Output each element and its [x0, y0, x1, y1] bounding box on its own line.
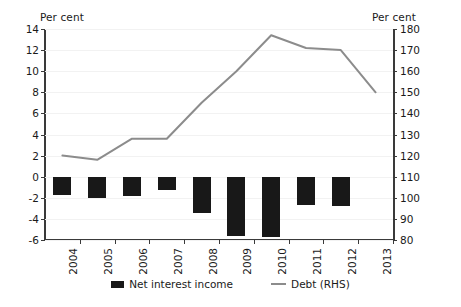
- right-axis-tickmark: [393, 198, 397, 199]
- legend-line-swatch-icon: [271, 283, 286, 285]
- x-axis-tickmark: [149, 240, 150, 244]
- legend-bar-swatch-icon: [111, 281, 124, 288]
- right-axis-tick-label: 130: [400, 129, 430, 141]
- left-axis-tickmark: [41, 240, 45, 241]
- legend-item: Net interest income: [111, 278, 233, 290]
- right-axis-tickmark: [393, 135, 397, 136]
- left-axis-tick-label: 6: [13, 107, 39, 119]
- x-axis-tickmark: [289, 240, 290, 244]
- left-axis-title: Per cent: [40, 11, 84, 23]
- x-axis-tickmark: [323, 240, 324, 244]
- x-axis-tick-label: 2004: [67, 248, 79, 275]
- debt-line: [62, 35, 375, 160]
- left-axis-tick-label: -2: [13, 192, 39, 204]
- right-axis-tick-label: 80: [400, 234, 430, 246]
- left-axis-tick-label: 10: [13, 65, 39, 77]
- left-axis-tick-label: -4: [13, 213, 39, 225]
- x-axis-tickmark: [184, 240, 185, 244]
- x-axis-tick-label: 2007: [172, 248, 184, 275]
- x-axis-tick-label: 2005: [102, 248, 114, 275]
- right-axis-tick-label: 100: [400, 192, 430, 204]
- x-axis-tickmark: [358, 240, 359, 244]
- chart-legend: Net interest incomeDebt (RHS): [0, 278, 461, 290]
- right-axis-tickmark: [393, 219, 397, 220]
- right-axis-tickmark: [393, 92, 397, 93]
- legend-item: Debt (RHS): [271, 278, 350, 290]
- right-axis-tick-label: 140: [400, 107, 430, 119]
- x-axis-tickmark: [80, 240, 81, 244]
- left-axis-tick-label: 2: [13, 150, 39, 162]
- right-axis-tick-label: 90: [400, 213, 430, 225]
- right-axis-tick-label: 170: [400, 44, 430, 56]
- x-axis-tickmark: [254, 240, 255, 244]
- right-axis-title: Per cent: [372, 11, 416, 23]
- x-axis-tick-label: 2006: [137, 248, 149, 275]
- x-axis-tick-label: 2011: [311, 248, 323, 275]
- right-axis-tick-label: 150: [400, 86, 430, 98]
- right-axis-tickmark: [393, 50, 397, 51]
- x-axis-tick-label: 2010: [276, 248, 288, 275]
- right-axis-tick-label: 120: [400, 150, 430, 162]
- x-axis-tickmark: [393, 240, 394, 244]
- left-axis-tick-label: 14: [13, 23, 39, 35]
- right-axis-tickmark: [393, 177, 397, 178]
- right-axis-tick-label: 180: [400, 23, 430, 35]
- left-axis-tick-label: 12: [13, 44, 39, 56]
- x-axis-tick-label: 2009: [241, 248, 253, 275]
- x-axis-tick-label: 2013: [381, 248, 393, 275]
- legend-label: Debt (RHS): [291, 278, 350, 290]
- x-axis-tick-label: 2008: [207, 248, 219, 275]
- x-axis-tickmark: [219, 240, 220, 244]
- right-axis-tickmark: [393, 71, 397, 72]
- right-axis-tickmark: [393, 29, 397, 30]
- left-axis-tick-label: -6: [13, 234, 39, 246]
- left-axis-tick-label: 4: [13, 129, 39, 141]
- left-axis-tick-label: 0: [13, 171, 39, 183]
- right-axis-tick-label: 160: [400, 65, 430, 77]
- right-axis-tickmark: [393, 156, 397, 157]
- line-series: [45, 29, 393, 240]
- x-axis-tickmark: [115, 240, 116, 244]
- legend-label: Net interest income: [129, 278, 233, 290]
- right-axis-tickmark: [393, 113, 397, 114]
- plot-area: -6-4-202468101214 8090100110120130140150…: [45, 29, 393, 240]
- left-axis-tick-label: 8: [13, 86, 39, 98]
- chart-container: Per cent Per cent -6-4-202468101214 8090…: [0, 0, 461, 307]
- x-axis-tick-label: 2012: [346, 248, 358, 275]
- right-axis-tick-label: 110: [400, 171, 430, 183]
